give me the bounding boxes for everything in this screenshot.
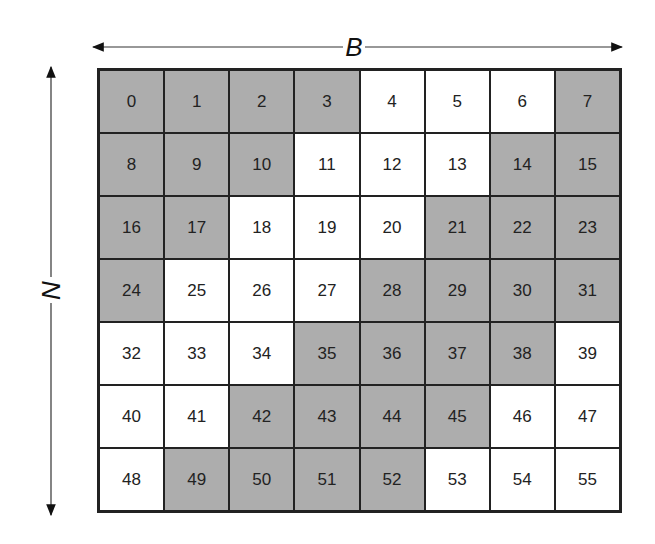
grid-cell: 8 [99,133,164,196]
grid-cell: 19 [294,196,359,259]
grid-cell: 32 [99,322,164,385]
grid-cell: 44 [360,385,425,448]
grid-cell: 38 [490,322,555,385]
grid-cell: 34 [229,322,294,385]
grid-cell: 35 [294,322,359,385]
grid-cell: 13 [425,133,490,196]
grid-cell: 6 [490,70,555,133]
grid-cell: 24 [99,259,164,322]
grid-cell: 26 [229,259,294,322]
grid-cell: 1 [164,70,229,133]
grid-cell: 17 [164,196,229,259]
height-label: N [37,277,65,303]
grid-cell: 51 [294,448,359,511]
grid-cell: 12 [360,133,425,196]
grid-cell: 5 [425,70,490,133]
grid-cell: 31 [555,259,620,322]
grid-cell: 45 [425,385,490,448]
grid-cell: 25 [164,259,229,322]
grid-cell: 49 [164,448,229,511]
grid-cell: 39 [555,322,620,385]
grid-cell: 0 [99,70,164,133]
grid-cell: 48 [99,448,164,511]
width-label: B [343,33,365,61]
grid-cell: 41 [164,385,229,448]
grid-cell: 36 [360,322,425,385]
grid-cell: 22 [490,196,555,259]
grid-cell: 54 [490,448,555,511]
grid-cell: 37 [425,322,490,385]
block-grid: 0123456789101112131415161718192021222324… [97,68,622,513]
grid-cell: 53 [425,448,490,511]
grid-cell: 11 [294,133,359,196]
grid-cell: 16 [99,196,164,259]
grid-cell: 29 [425,259,490,322]
grid-cell: 9 [164,133,229,196]
grid-cell: 28 [360,259,425,322]
grid-cell: 50 [229,448,294,511]
grid-cell: 42 [229,385,294,448]
grid-cell: 10 [229,133,294,196]
grid-cell: 15 [555,133,620,196]
grid-cell: 46 [490,385,555,448]
grid-cell: 7 [555,70,620,133]
grid-cell: 2 [229,70,294,133]
grid-cell: 27 [294,259,359,322]
grid-cell: 55 [555,448,620,511]
grid-cell: 47 [555,385,620,448]
grid-cell: 43 [294,385,359,448]
grid-cell: 52 [360,448,425,511]
grid-cell: 33 [164,322,229,385]
grid-cell: 3 [294,70,359,133]
grid-cell: 30 [490,259,555,322]
grid-cell: 14 [490,133,555,196]
grid-cell: 18 [229,196,294,259]
grid-cell: 23 [555,196,620,259]
grid-cell: 40 [99,385,164,448]
grid-cell: 20 [360,196,425,259]
grid-cell: 4 [360,70,425,133]
grid-cell: 21 [425,196,490,259]
